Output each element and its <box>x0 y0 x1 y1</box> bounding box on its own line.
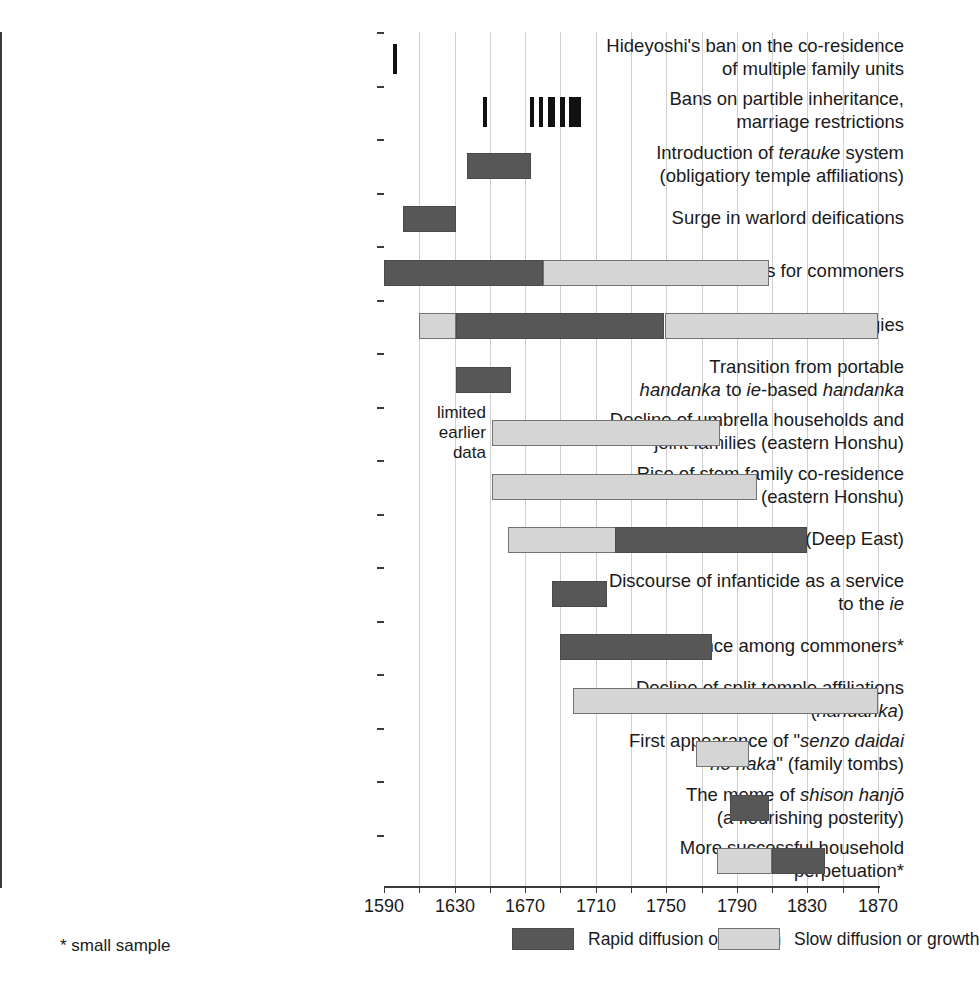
tick-1630 <box>455 886 456 893</box>
tick-1770 <box>702 886 703 893</box>
tick-label-1590: 1590 <box>364 896 404 917</box>
bar-segment-slow-row5 <box>665 313 878 339</box>
tick-label-1670: 1670 <box>505 896 545 917</box>
tick-1790 <box>737 886 738 893</box>
tick-1590 <box>384 886 385 893</box>
row-label-line: (obligatiory temple affiliations) <box>546 164 904 187</box>
tick-1730 <box>631 886 632 893</box>
bar-segment-slow-row9 <box>508 527 616 553</box>
row-label-line: of multiple family units <box>546 57 904 80</box>
tick-1750 <box>666 886 667 893</box>
row-tick-0 <box>377 32 384 34</box>
bar-segment-slow-row8 <box>492 474 757 500</box>
row-tick-1 <box>377 86 384 88</box>
row-label-line: Transition from portable <box>546 355 904 378</box>
row-label-line: (a flourishing posterity) <box>546 806 904 829</box>
bar-segment-rapid-row1 <box>530 97 534 127</box>
legend-swatch-rapid <box>512 928 574 950</box>
row-label-line: Hideyoshi's ban on the co-residence <box>546 34 904 57</box>
bar-segment-rapid-row5 <box>456 313 664 339</box>
row-label-line: Bans on partible inheritance, <box>546 87 904 110</box>
bar-segment-rapid-row14 <box>730 795 769 821</box>
tick-1710 <box>596 886 597 893</box>
row-tick-15 <box>377 835 384 837</box>
bar-segment-rapid-row4 <box>384 260 543 286</box>
row-label-3: Surge in warlord deifications <box>546 206 918 229</box>
row-tick-11 <box>377 621 384 623</box>
row-tick-2 <box>377 139 384 141</box>
row-tick-12 <box>377 674 384 676</box>
bar-segment-rapid-row1 <box>483 97 487 127</box>
row-label-0: Hideyoshi's ban on the co-residenceof mu… <box>546 34 918 80</box>
legend-item-slow: Slow diffusion or growth <box>718 928 979 950</box>
tick-1850 <box>843 886 844 893</box>
footnote-small-sample: * small sample <box>60 936 171 956</box>
bar-segment-rapid-row3 <box>403 206 456 232</box>
bar-segment-rapid-row1 <box>560 97 565 127</box>
bar-segment-rapid-row1 <box>548 97 555 127</box>
row-label-line: marriage restrictions <box>546 110 904 133</box>
row-tick-9 <box>377 514 384 516</box>
legend-label-slow: Slow diffusion or growth <box>794 929 979 950</box>
row-tick-13 <box>377 728 384 730</box>
row-tick-7 <box>377 407 384 409</box>
tick-1870 <box>878 886 879 893</box>
row-label-6: Transition from portablehandanka to ie-b… <box>546 355 918 401</box>
tick-1690 <box>560 886 561 893</box>
bar-segment-rapid-row10 <box>552 581 607 607</box>
row-tick-6 <box>377 353 384 355</box>
bar-segment-rapid-row11 <box>560 634 712 660</box>
annotation-line: limited <box>437 403 486 422</box>
row-tick-10 <box>377 567 384 569</box>
bar-segment-rapid-row1 <box>539 97 543 127</box>
tick-1670 <box>525 886 526 893</box>
bar-segment-rapid-row0 <box>393 44 397 74</box>
row-label-line: handanka to ie-based handanka <box>546 378 904 401</box>
bar-segment-rapid-row6 <box>456 367 511 393</box>
tick-1830 <box>807 886 808 893</box>
row-label-2: Introduction of terauke system(obligatio… <box>546 141 918 187</box>
row-tick-14 <box>377 781 384 783</box>
row-tick-5 <box>377 300 384 302</box>
bar-segment-slow-row13 <box>696 741 749 767</box>
tick-label-1790: 1790 <box>717 896 757 917</box>
bar-segment-slow-row4 <box>543 260 769 286</box>
y-axis-line <box>0 32 2 888</box>
tick-label-1830: 1830 <box>787 896 827 917</box>
row-label-line: The meme of shison hanjō <box>546 783 904 806</box>
tick-1610 <box>419 886 420 893</box>
row-label-line: Surge in warlord deifications <box>546 206 904 229</box>
tick-1650 <box>490 886 491 893</box>
bar-segment-rapid-row1 <box>569 97 581 127</box>
row-label-1: Bans on partible inheritance,marriage re… <box>546 87 918 133</box>
bar-segment-slow-row12 <box>573 688 878 714</box>
bar-segment-slow-row15 <box>717 848 772 874</box>
row-label-line: Introduction of terauke system <box>546 141 904 164</box>
annotation-line: data <box>453 443 486 462</box>
bar-segment-rapid-row9 <box>615 527 807 553</box>
bar-segment-rapid-row2 <box>467 153 531 179</box>
row-tick-8 <box>377 460 384 462</box>
row-tick-4 <box>377 246 384 248</box>
tick-1810 <box>772 886 773 893</box>
tick-label-1710: 1710 <box>576 896 616 917</box>
annotation-limited-earlier-data: limitedearlierdata <box>400 403 486 463</box>
bar-segment-rapid-row15 <box>772 848 825 874</box>
tick-label-1750: 1750 <box>646 896 686 917</box>
tick-label-1630: 1630 <box>435 896 475 917</box>
annotation-line: earlier <box>439 423 486 442</box>
row-tick-3 <box>377 193 384 195</box>
x-axis-line <box>384 886 880 888</box>
bar-segment-slow-row5 <box>419 313 456 339</box>
bar-segment-slow-row7 <box>492 420 720 446</box>
legend-swatch-slow <box>718 928 780 950</box>
tick-label-1870: 1870 <box>858 896 898 917</box>
